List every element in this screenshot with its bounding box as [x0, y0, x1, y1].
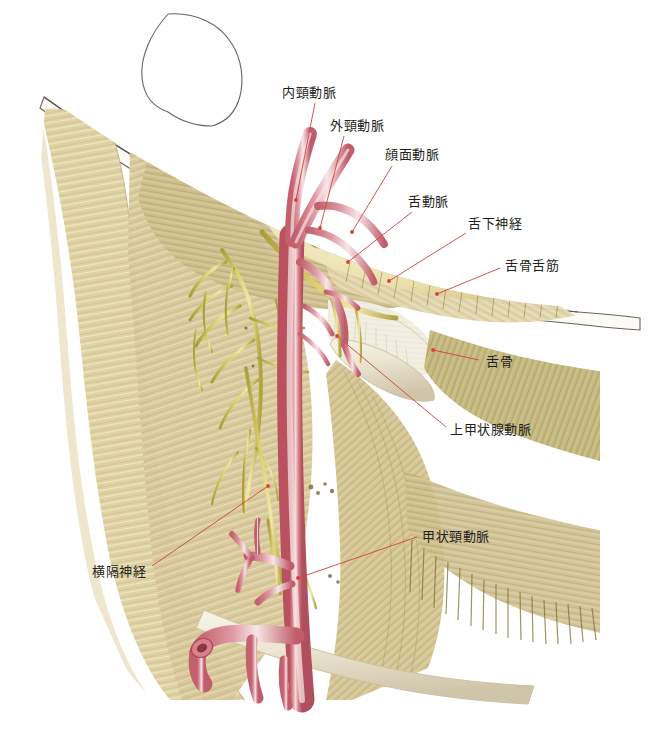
leader-endpoint-facial-artery	[350, 230, 354, 234]
leader-endpoint-lingual-artery	[346, 260, 350, 264]
leader-endpoint-hypoglossal-nerve	[387, 279, 391, 283]
leader-endpoint-external-carotid-artery	[318, 226, 322, 230]
leader-endpoint-phrenic-nerve	[266, 484, 270, 488]
label-text-internal-carotid-artery: 内頸動脈	[282, 85, 336, 100]
label-text-thyrocervical-trunk: 甲状頸動脈	[422, 529, 490, 544]
leader-endpoint-hyoid-bone	[431, 348, 435, 352]
label-text-facial-artery: 顔面動脈	[385, 147, 439, 162]
anatomy-illustration: 内頸動脈外頸動脈顔面動脈舌動脈舌下神経舌骨舌筋舌骨上甲状腺動脈甲状頸動脈横隔神経	[0, 0, 649, 734]
label-text-phrenic-nerve: 横隔神経	[92, 564, 146, 579]
label-text-superior-thyroid-artery: 上甲状腺動脈	[450, 422, 531, 437]
leader-endpoint-hyoglossus-muscle	[435, 292, 439, 296]
anatomy-figure: 内頸動脈外頸動脈顔面動脈舌動脈舌下神経舌骨舌筋舌骨上甲状腺動脈甲状頸動脈横隔神経	[0, 0, 649, 734]
label-text-hyoid-bone: 舌骨	[486, 354, 513, 369]
leader-endpoint-internal-carotid-artery	[294, 198, 298, 202]
label-text-lingual-artery: 舌動脈	[408, 194, 449, 209]
label-text-external-carotid-artery: 外頸動脈	[330, 118, 384, 133]
label-text-hypoglossal-nerve: 舌下神経	[468, 216, 522, 231]
label-text-hyoglossus-muscle: 舌骨舌筋	[505, 258, 559, 273]
leader-endpoint-thyrocervical-trunk	[296, 576, 300, 580]
leader-endpoint-superior-thyroid-artery	[335, 334, 339, 338]
